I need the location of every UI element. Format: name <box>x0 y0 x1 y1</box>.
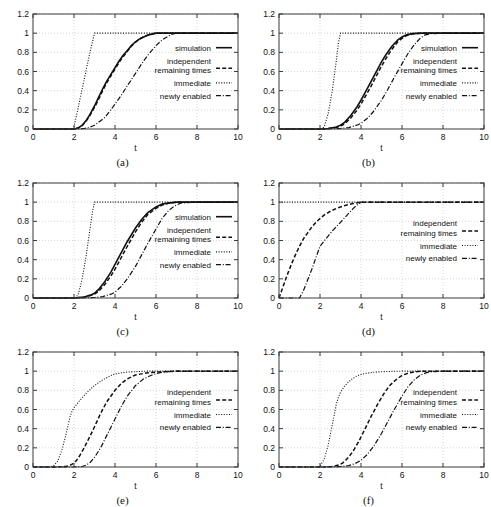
legend-label: newly enabled <box>160 423 211 432</box>
x-tick-label: 4 <box>113 132 118 142</box>
x-tick-label: 2 <box>72 132 77 142</box>
chart-c: 00.20.40.60.811.20246810tsimulationindep… <box>0 169 245 321</box>
gridlines <box>33 352 238 467</box>
legend-label: independent <box>167 57 212 66</box>
y-tick-label: 0.2 <box>17 443 29 453</box>
y-tick-label: 1 <box>24 197 29 207</box>
legend-label: independent <box>413 57 458 66</box>
x-tick-label: 10 <box>233 470 243 480</box>
y-tick-label: 1 <box>270 366 275 376</box>
y-tick-label: 0.6 <box>263 67 275 77</box>
x-tick-label: 4 <box>359 470 364 480</box>
chart-d: 00.20.40.60.811.20246810tindependentrema… <box>246 169 491 321</box>
y-tick-label: 0.4 <box>17 255 29 265</box>
legend-label: remaining times <box>401 229 457 238</box>
y-tick-label: 1.2 <box>263 178 275 188</box>
legend-label: remaining times <box>155 66 211 75</box>
x-axis-title: t <box>134 312 137 321</box>
x-tick-label: 0 <box>31 132 36 142</box>
plot-area-a: 00.20.40.60.811.20246810tsimulationindep… <box>0 0 245 152</box>
panel-f: 00.20.40.60.811.20246810tindependentrema… <box>246 338 491 507</box>
chart-e: 00.20.40.60.811.20246810tindependentrema… <box>0 338 245 490</box>
legend: simulationindependentremaining timesimme… <box>401 44 478 101</box>
legend-label: independent <box>167 388 212 397</box>
y-tick-label: 0.2 <box>263 105 275 115</box>
y-tick-label: 1 <box>270 197 275 207</box>
y-tick-label: 0.6 <box>263 236 275 246</box>
y-tick-label: 0 <box>270 293 275 303</box>
panel-caption-e: (e) <box>0 494 245 506</box>
x-tick-label: 8 <box>195 301 200 311</box>
y-tick-label: 0.8 <box>263 385 275 395</box>
plot-area-d: 00.20.40.60.811.20246810tindependentrema… <box>246 169 491 321</box>
x-tick-label: 8 <box>441 301 446 311</box>
y-tick-label: 1 <box>270 28 275 38</box>
x-tick-label: 6 <box>400 301 405 311</box>
y-tick-label: 0.8 <box>263 216 275 226</box>
panel-b: 00.20.40.60.811.20246810tsimulationindep… <box>246 0 491 169</box>
x-tick-label: 6 <box>154 132 159 142</box>
legend-label: remaining times <box>401 398 457 407</box>
x-tick-label: 0 <box>277 470 282 480</box>
legend-label: newly enabled <box>160 261 211 270</box>
legend-label: newly enabled <box>160 92 211 101</box>
x-tick-label: 0 <box>277 132 282 142</box>
y-tick-label: 0.4 <box>263 86 275 96</box>
panel-caption-c: (c) <box>0 325 245 337</box>
panel-caption-b: (b) <box>246 156 491 168</box>
x-tick-label: 2 <box>318 132 323 142</box>
plot-area-e: 00.20.40.60.811.20246810tindependentrema… <box>0 338 245 490</box>
legend-label: immediate <box>174 248 211 257</box>
x-tick-label: 4 <box>359 132 364 142</box>
legend-label: remaining times <box>155 235 211 244</box>
x-tick-label: 10 <box>233 132 243 142</box>
x-tick-label: 0 <box>277 301 282 311</box>
panel-d: 00.20.40.60.811.20246810tindependentrema… <box>246 169 491 338</box>
x-tick-label: 8 <box>195 132 200 142</box>
legend: independentremaining timesimmediatenewly… <box>155 388 232 432</box>
plot-area-f: 00.20.40.60.811.20246810tindependentrema… <box>246 338 491 490</box>
y-tick-label: 0.4 <box>263 424 275 434</box>
legend: simulationindependentremaining timesimme… <box>155 44 232 101</box>
legend-label: simulation <box>175 213 211 222</box>
y-tick-label: 0.8 <box>17 385 29 395</box>
x-tick-label: 2 <box>318 301 323 311</box>
panel-caption-d: (d) <box>246 325 491 337</box>
x-axis-title: t <box>380 143 383 152</box>
y-tick-label: 1.2 <box>17 178 29 188</box>
panel-caption-a: (a) <box>0 156 245 168</box>
x-tick-label: 6 <box>400 470 405 480</box>
legend: independentremaining timesimmediatenewly… <box>401 388 478 432</box>
legend: simulationindependentremaining timesimme… <box>155 213 232 270</box>
y-tick-label: 0.6 <box>17 236 29 246</box>
chart-a: 00.20.40.60.811.20246810tsimulationindep… <box>0 0 245 152</box>
y-tick-label: 1 <box>24 28 29 38</box>
gridlines <box>279 352 484 467</box>
x-tick-label: 10 <box>233 301 243 311</box>
legend-label: newly enabled <box>406 254 457 263</box>
y-tick-label: 1 <box>24 366 29 376</box>
y-tick-label: 0.6 <box>17 405 29 415</box>
legend-label: immediate <box>420 79 457 88</box>
legend-label: independent <box>413 219 458 228</box>
y-tick-label: 0.2 <box>263 274 275 284</box>
legend-label: immediate <box>174 411 211 420</box>
legend-label: immediate <box>420 242 457 251</box>
x-axis-title: t <box>380 312 383 321</box>
figure-six-panel-cdf-comparison: 00.20.40.60.811.20246810tsimulationindep… <box>0 0 491 507</box>
legend-label: simulation <box>175 44 211 53</box>
legend-label: newly enabled <box>406 423 457 432</box>
axes: 00.20.40.60.811.20246810 <box>17 9 243 142</box>
x-axis-title: t <box>134 481 137 490</box>
panel-c: 00.20.40.60.811.20246810tsimulationindep… <box>0 169 245 338</box>
y-tick-label: 1.2 <box>17 9 29 19</box>
chart-f: 00.20.40.60.811.20246810tindependentrema… <box>246 338 491 490</box>
legend-label: remaining times <box>401 66 457 75</box>
y-tick-label: 1.2 <box>17 347 29 357</box>
panel-e: 00.20.40.60.811.20246810tindependentrema… <box>0 338 245 507</box>
chart-b: 00.20.40.60.811.20246810tsimulationindep… <box>246 0 491 152</box>
x-tick-label: 2 <box>72 470 77 480</box>
y-tick-label: 1.2 <box>263 9 275 19</box>
x-tick-label: 0 <box>31 301 36 311</box>
x-tick-label: 8 <box>195 470 200 480</box>
